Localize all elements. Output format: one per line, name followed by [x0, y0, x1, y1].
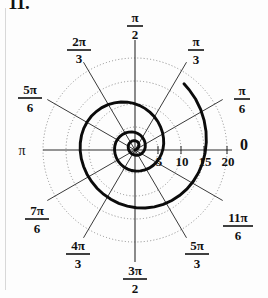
angle-label-four-pi-over-3: 4π 3 [66, 238, 90, 271]
three-pi-over-2-denominator: 2 [132, 281, 139, 296]
angle-label-five-pi-over-3: 5π 3 [185, 238, 209, 271]
svg-text:4π: 4π [71, 238, 85, 253]
r-tick-label-15: 15 [199, 154, 213, 169]
svg-text:2: 2 [132, 27, 139, 42]
pi-over-2-numerator: π [131, 10, 138, 25]
two-pi-over-3-numerator: 2π [72, 34, 86, 49]
angle-label-three-pi-over-2: 3π 2 [123, 263, 147, 296]
pi-over-3-denominator: 3 [193, 52, 200, 67]
pi-over-6-numerator: π [238, 83, 245, 98]
spiral-curve-path [80, 84, 206, 208]
five-pi-over-3-denominator: 3 [194, 256, 201, 271]
r-tick-label-10: 10 [176, 154, 189, 169]
svg-text:6: 6 [34, 221, 41, 236]
five-pi-over-6-denominator: 6 [27, 100, 34, 115]
svg-text:3: 3 [75, 256, 82, 271]
pi-label-text: π [18, 143, 25, 158]
svg-text:6: 6 [27, 100, 34, 115]
two-pi-over-3-denominator: 3 [76, 51, 83, 66]
angle-label-pi: π [18, 143, 25, 158]
angle-label-pi-over-6: π 6 [234, 83, 250, 116]
svg-text:6: 6 [235, 228, 242, 243]
five-pi-over-6-numerator: 5π [23, 82, 37, 97]
r-tick-label-20: 20 [222, 154, 235, 169]
svg-text:π: π [192, 34, 199, 49]
four-pi-over-3-numerator: 4π [71, 238, 85, 253]
angle-label-pi-over-2: π 2 [127, 10, 143, 42]
angle-label-two-pi-over-3: 2π 3 [67, 34, 91, 66]
svg-text:11π: 11π [228, 210, 247, 225]
angle-label-seven-pi-over-6: 7π 6 [25, 203, 49, 236]
svg-text:3π: 3π [128, 263, 142, 278]
svg-text:6: 6 [239, 101, 246, 116]
five-pi-over-3-numerator: 5π [190, 238, 204, 253]
svg-text:π: π [238, 83, 245, 98]
angle-label-five-pi-over-6: 5π 6 [18, 82, 42, 115]
angle-label-zero: 0 [240, 136, 248, 153]
svg-text:3: 3 [193, 52, 200, 67]
polar-plot-svg: π 2 2π 3 5π 6 [0, 0, 268, 298]
seven-pi-over-6-numerator: 7π [30, 203, 44, 218]
seven-pi-over-6-denominator: 6 [34, 221, 41, 236]
svg-text:3: 3 [194, 256, 201, 271]
spiral-series-group [80, 84, 206, 208]
svg-text:5π: 5π [190, 238, 204, 253]
polar-figure-container: 11. [0, 0, 268, 298]
eleven-pi-over-6-denominator: 6 [235, 228, 242, 243]
pi-over-6-denominator: 6 [239, 101, 246, 116]
angle-label-eleven-pi-over-6: 11π 6 [223, 210, 253, 243]
radial-labels-group: 5 10 15 20 [156, 154, 235, 169]
svg-text:7π: 7π [30, 203, 44, 218]
svg-text:2π: 2π [72, 34, 86, 49]
svg-text:3: 3 [76, 51, 83, 66]
svg-text:π: π [131, 10, 138, 25]
three-pi-over-2-numerator: 3π [128, 263, 142, 278]
pi-over-2-denominator: 2 [132, 27, 139, 42]
r-tick-label-5: 5 [156, 154, 163, 169]
angle-label-pi-over-3: π 3 [188, 34, 204, 67]
pi-over-3-numerator: π [192, 34, 199, 49]
svg-text:2: 2 [132, 281, 139, 296]
four-pi-over-3-denominator: 3 [75, 256, 82, 271]
svg-text:5π: 5π [23, 82, 37, 97]
eleven-pi-over-6-numerator: 11π [228, 210, 247, 225]
